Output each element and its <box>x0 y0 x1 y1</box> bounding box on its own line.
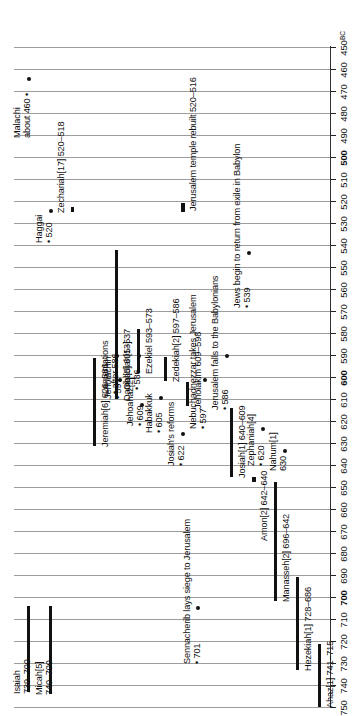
axis-label: 480 <box>338 103 349 125</box>
gridline <box>14 223 330 224</box>
axis-unit-label: BC <box>339 31 346 40</box>
label-return: Jews begin to return from exile in Babyl… <box>232 144 253 308</box>
axis-label: 680 <box>338 543 349 565</box>
axis-label: 620 <box>338 411 349 433</box>
axis-label: 650 <box>338 477 349 499</box>
axis-label: 730 <box>338 653 349 675</box>
axis-label: 600 <box>338 367 349 389</box>
gridline <box>14 641 330 642</box>
bar-josiah <box>230 408 233 476</box>
axis-label: 510 <box>338 169 349 191</box>
bar-zedekiah <box>164 357 167 381</box>
label-nahum: Nahum[1] 630 <box>268 432 289 471</box>
label-obadiah: Obadiah[13] • 586 <box>122 342 143 390</box>
axis-label: 640 <box>338 455 349 477</box>
axis-label: 660 <box>338 499 349 521</box>
axis-label: 710 <box>338 609 349 631</box>
label-nebuchadnezzar: Nebuchadnezzar takes Jerusalem • 597 <box>188 295 209 429</box>
label-ahaz: Ahaz[1] 741–715 <box>325 641 335 708</box>
gridline <box>14 91 330 92</box>
axis-label: 540 <box>338 235 349 257</box>
axis-label: 500 <box>338 147 349 169</box>
label-manasseh: Manasseh[2] 696–642 <box>281 514 291 602</box>
axis-label: 590 <box>338 345 349 367</box>
gridline <box>14 707 330 708</box>
axis-label: 550 <box>338 257 349 279</box>
gridline <box>14 509 330 510</box>
timeline-chart: 7507407307207107006906806706606506406306… <box>0 0 354 716</box>
gridline <box>14 289 330 290</box>
gridline <box>14 399 330 400</box>
gridline <box>14 245 330 246</box>
axis-label: 740 <box>338 675 349 697</box>
label-ezekiel: Ezekiel 593–573 <box>144 308 154 374</box>
bar-jeremiah <box>93 358 96 446</box>
axis-label: 700 <box>338 587 349 609</box>
axis-label: 690 <box>338 565 349 587</box>
label-habakkuk: Habakkuk • 605 <box>144 393 165 433</box>
axis-label: 520 <box>338 191 349 213</box>
gridline <box>14 267 330 268</box>
label-amon: Amon[2] 642–640 <box>259 471 269 541</box>
gridline <box>14 47 330 48</box>
bar-manasseh <box>274 482 277 601</box>
axis-label: 630 <box>338 433 349 455</box>
label-lamentations: Lamentations • after 586 <box>100 341 121 394</box>
dot-haggai <box>49 209 53 213</box>
gridline <box>14 69 330 70</box>
axis-label: 560 <box>338 279 349 301</box>
label-fall: Jerusalem falls to the Babylonians • 586 <box>210 276 231 410</box>
label-haggai: Haggai • 520 <box>34 215 55 243</box>
label-temple: Jerusalem temple rebuilt 520–516 <box>188 77 198 211</box>
label-zedekiah: Zedekiah[2] 597–586 <box>171 299 181 382</box>
gridline <box>14 685 330 686</box>
bar-ahaz <box>318 644 321 708</box>
axis-label: 470 <box>338 81 349 103</box>
axis-label: 580 <box>338 323 349 345</box>
label-hezekiah: Hezekiah[1] 728–686 <box>303 587 313 671</box>
axis-label: 750 <box>338 697 349 716</box>
timeline-canvas: 7507407307207107006906806706606506406306… <box>0 0 354 716</box>
gridline <box>14 487 330 488</box>
axis-label: 460 <box>338 59 349 81</box>
gridline <box>14 663 330 664</box>
axis-label: 570 <box>338 301 349 323</box>
dot-malachi <box>27 77 31 81</box>
label-malachi: Malachi about 460 • <box>12 93 33 138</box>
bar-hezekiah <box>296 577 299 670</box>
bar-amon <box>252 477 256 482</box>
label-micah: Micah[5] 740–700 <box>34 660 55 695</box>
axis-label: 720 <box>338 631 349 653</box>
label-zephaniah: Zephaniah[4] • 620 <box>246 414 267 466</box>
gridline <box>14 113 330 114</box>
axis-label: 490 <box>338 125 349 147</box>
axis-label: 670 <box>338 521 349 543</box>
bar-zechariah <box>71 207 74 213</box>
axis-baseline <box>330 46 331 708</box>
axis-label: 450 <box>338 37 349 59</box>
label-sennacherib: Sennacherib lays siege to Jerusalem • 70… <box>182 519 203 664</box>
label-zechariah: Zechariah[17] 520–518 <box>56 122 66 213</box>
label-isaiah: Isaiah 739–700 <box>12 659 33 694</box>
axis-label: 610 <box>338 389 349 411</box>
label-reforms: Josiah's reforms • 622 <box>166 402 187 466</box>
gridline <box>14 619 330 620</box>
bar-temple <box>181 203 185 212</box>
axis-label: 530 <box>338 213 349 235</box>
